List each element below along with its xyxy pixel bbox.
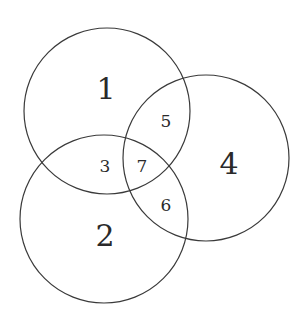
region-label-4: 4 [219,146,238,181]
region-label-6: 6 [161,195,172,215]
region-label-2: 2 [95,218,114,253]
region-label-3: 3 [100,156,111,176]
region-label-1: 1 [96,71,115,106]
region-label-5: 5 [161,111,172,131]
venn-diagram: 1 2 3 4 5 6 7 [0,0,302,333]
region-label-7: 7 [137,156,148,176]
circle-4 [123,75,289,241]
